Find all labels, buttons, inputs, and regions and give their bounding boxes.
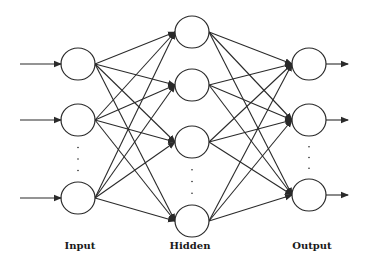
input-node bbox=[61, 104, 95, 136]
output-node bbox=[292, 179, 326, 211]
edge bbox=[209, 64, 292, 85]
ellipsis-dot bbox=[308, 157, 310, 159]
input-layer-label: Input bbox=[65, 240, 96, 251]
edge bbox=[95, 198, 175, 221]
ellipsis-dot bbox=[77, 170, 79, 172]
edge bbox=[209, 85, 292, 195]
ellipsis-dot bbox=[191, 169, 193, 171]
output-node bbox=[292, 104, 326, 136]
edge bbox=[209, 32, 292, 64]
hidden-node bbox=[175, 69, 209, 101]
neural-network-diagram bbox=[0, 0, 370, 265]
input-node bbox=[61, 48, 95, 80]
hidden-layer-label: Hidden bbox=[170, 240, 211, 251]
ellipsis-dot bbox=[308, 167, 310, 169]
output-layer-label: Output bbox=[292, 240, 331, 251]
edge bbox=[95, 64, 175, 221]
edge bbox=[95, 142, 175, 198]
edge bbox=[95, 32, 175, 64]
ellipsis-dot bbox=[77, 147, 79, 149]
output-node bbox=[292, 48, 326, 80]
edge bbox=[209, 142, 292, 195]
ellipsis-dot bbox=[191, 181, 193, 183]
ellipsis-dot bbox=[191, 192, 193, 194]
edge bbox=[95, 64, 175, 85]
hidden-node bbox=[175, 16, 209, 48]
hidden-node bbox=[175, 126, 209, 158]
edge bbox=[209, 64, 292, 221]
edge bbox=[209, 195, 292, 221]
hidden-node bbox=[175, 205, 209, 237]
input-node bbox=[61, 182, 95, 214]
ellipsis-dot bbox=[308, 146, 310, 148]
ellipsis-dot bbox=[77, 158, 79, 160]
